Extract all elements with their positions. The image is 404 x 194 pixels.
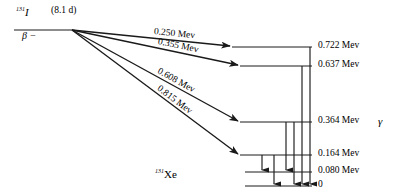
level-label-l000: 0 <box>318 180 323 190</box>
level-label-l364: 0.364 Mev <box>318 116 359 126</box>
parent-half-life: (8.1 d) <box>51 6 76 16</box>
gamma-symbol-label: γ <box>378 116 382 127</box>
level-label-l080: 0.080 Mev <box>318 166 359 176</box>
parent-nuclide-label: 131I <box>16 6 29 18</box>
energy-levels-group <box>232 47 312 186</box>
parent-element-symbol: I <box>25 6 29 18</box>
daughter-mass-number: 131 <box>155 168 164 174</box>
gamma-transitions-group <box>262 47 310 184</box>
level-label-l637: 0.637 Mev <box>318 60 359 70</box>
level-label-l722: 0.722 Mev <box>318 41 359 51</box>
level-label-l164: 0.164 Mev <box>318 149 359 159</box>
daughter-nuclide-label: 131Xe <box>155 168 177 180</box>
parent-mass-number: 131 <box>16 6 25 12</box>
beta-minus-symbol: β − <box>22 31 36 41</box>
daughter-element-symbol: Xe <box>164 168 177 180</box>
